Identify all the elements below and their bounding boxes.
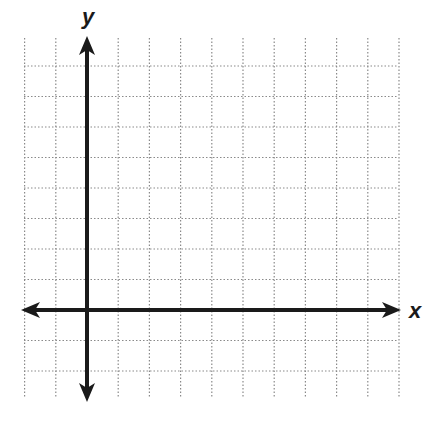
coordinate-plane — [0, 0, 444, 424]
x-axis — [21, 302, 401, 318]
y-axis-label: y — [82, 6, 94, 28]
x-axis-label: x — [409, 300, 421, 322]
grid-lines — [24, 38, 399, 398]
